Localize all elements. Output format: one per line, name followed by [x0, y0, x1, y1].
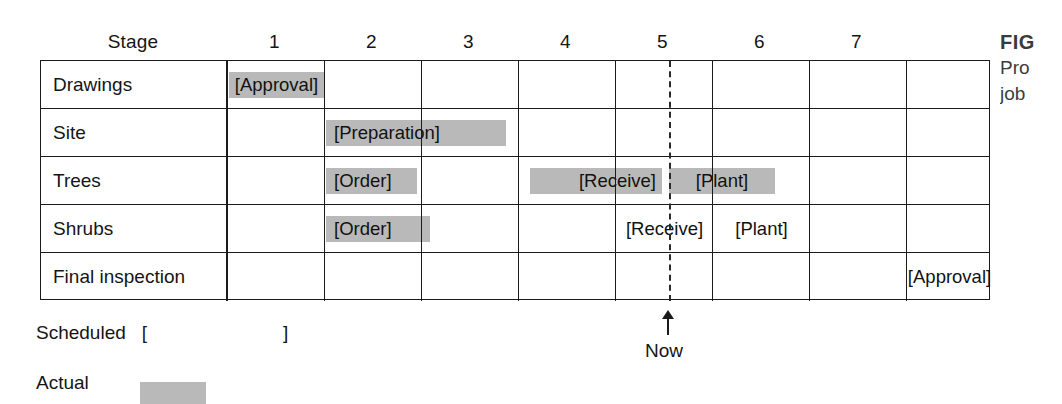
task-bar-label: [Receive] — [577, 172, 658, 191]
column-header-row: Stage 1 2 3 4 5 6 7 — [40, 28, 990, 60]
column-divider-1 — [227, 61, 228, 301]
column-divider-8 — [906, 61, 907, 301]
now-arrow-icon — [660, 310, 676, 336]
table-row: Drawings [Approval] — [41, 61, 989, 109]
table-row: Trees [Order] [Receive] [Plant] — [41, 157, 989, 205]
row-label-site: Site — [41, 109, 227, 156]
row-label-final-inspection: Final inspection — [41, 253, 227, 301]
legend-actual: Actual — [36, 372, 89, 394]
task-bar-trees-receive[interactable]: [Receive] — [530, 168, 662, 194]
figure-caption: FIG Pro job — [1000, 30, 1062, 106]
table-row: Final inspection [Approval] — [41, 253, 989, 301]
task-bar-shrubs-order[interactable]: [Order] — [326, 216, 430, 242]
column-divider-7 — [809, 61, 810, 301]
legend-scheduled-label: Scheduled — [36, 322, 126, 344]
table-row: Shrubs [Order] [Receive] [Plant] — [41, 205, 989, 253]
legend-actual-swatch — [140, 382, 206, 404]
legend-scheduled-bracket-sample: [ ] — [142, 322, 318, 344]
task-bar-trees-order[interactable]: [Order] — [326, 168, 417, 194]
task-bar-shrubs-plant[interactable]: [Plant] — [714, 216, 809, 242]
task-bar-label: [Plant] — [694, 172, 750, 191]
legend-actual-label: Actual — [36, 372, 89, 394]
gantt-grid: Drawings [Approval] Site [Preparation] T… — [40, 60, 990, 300]
figure-caption-title: FIG — [1000, 30, 1062, 55]
task-bar-trees-plant[interactable]: [Plant] — [669, 168, 775, 194]
figure-caption-line-2: job — [1000, 81, 1062, 107]
task-bar-site-preparation[interactable]: [Preparation] — [326, 120, 506, 146]
period-header-2: 2 — [323, 28, 420, 60]
row-label-drawings: Drawings — [41, 61, 227, 108]
figure-caption-line-1: Pro — [1000, 55, 1062, 81]
column-divider-3 — [421, 61, 422, 301]
period-header-6: 6 — [711, 28, 808, 60]
legend-scheduled: Scheduled [ ] — [36, 322, 318, 344]
column-divider-4 — [518, 61, 519, 301]
task-bar-label: [Approval] — [906, 268, 993, 287]
task-bar-label: [Order] — [332, 172, 394, 191]
task-bar-final-inspection-approval[interactable]: [Approval] — [908, 264, 991, 290]
task-bar-label: [Receive] — [624, 220, 705, 239]
task-bar-label: [Plant] — [733, 220, 789, 239]
row-label-trees: Trees — [41, 157, 227, 204]
column-divider-6 — [712, 61, 713, 301]
task-bar-drawings-approval[interactable]: [Approval] — [229, 72, 324, 98]
now-label: Now — [645, 340, 683, 362]
row-label-shrubs: Shrubs — [41, 205, 227, 252]
task-bar-shrubs-receive[interactable]: [Receive] — [617, 216, 712, 242]
period-header-3: 3 — [420, 28, 517, 60]
task-bar-label: [Approval] — [233, 76, 320, 95]
column-divider-2 — [324, 61, 325, 301]
gantt-chart: Stage 1 2 3 4 5 6 7 Drawings — [40, 28, 990, 303]
now-dashed-line — [669, 61, 671, 301]
table-row: Site [Preparation] — [41, 109, 989, 157]
period-header-7: 7 — [808, 28, 905, 60]
period-header-5: 5 — [614, 28, 711, 60]
task-bar-label: [Preparation] — [332, 124, 442, 143]
period-header-1: 1 — [226, 28, 323, 60]
column-divider-5 — [615, 61, 616, 301]
stage-column-header: Stage — [40, 28, 226, 60]
period-header-4: 4 — [517, 28, 614, 60]
task-bar-label: [Order] — [332, 220, 394, 239]
